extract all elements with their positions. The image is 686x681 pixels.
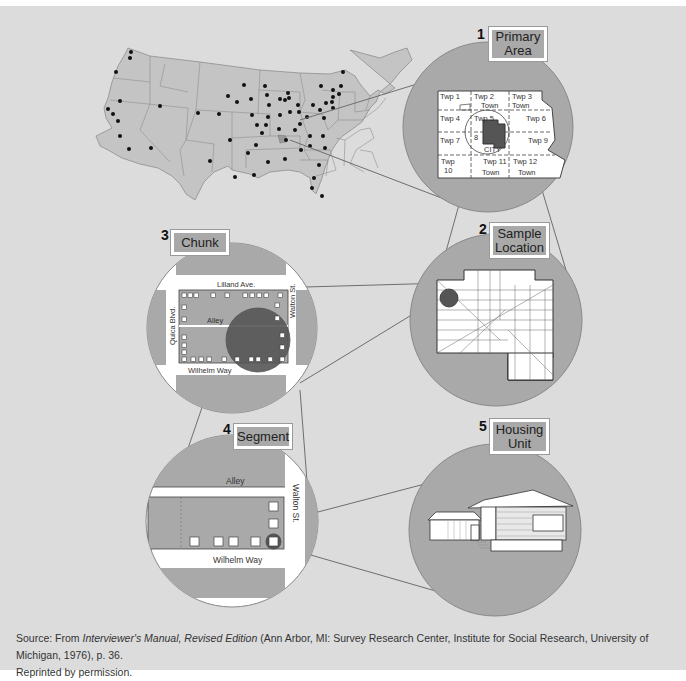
label-primary-area-text: PrimaryArea — [492, 30, 544, 58]
svg-text:CITY: CITY — [484, 145, 501, 154]
svg-text:Twp 9: Twp 9 — [528, 136, 548, 145]
primary-area-circle: Twp 1 Twp 2 Town Twp 3 Town Twp 4 Twp 5 … — [403, 42, 573, 212]
svg-text:Twp 7: Twp 7 — [440, 136, 460, 145]
label-sample-location-text: SampleLocation — [493, 226, 546, 255]
label-housing-unit: HousingUnit — [489, 418, 550, 455]
label-primary-area: PrimaryArea — [488, 26, 548, 62]
svg-text:Twp 4: Twp 4 — [440, 114, 460, 123]
svg-text:Twp 2: Twp 2 — [474, 92, 494, 101]
source-caption: Source: From Interviewer's Manual, Revis… — [16, 630, 676, 681]
svg-text:Alley: Alley — [226, 476, 245, 486]
svg-text:Quica Blvd.: Quica Blvd. — [168, 307, 177, 345]
svg-text:Wilhelm Way: Wilhelm Way — [188, 366, 232, 375]
svg-text:Twp 3: Twp 3 — [512, 92, 532, 101]
svg-text:Town: Town — [481, 101, 499, 110]
svg-text:Twp 6: Twp 6 — [526, 114, 546, 123]
svg-text:Lilland Ave.: Lilland Ave. — [217, 280, 255, 289]
label-segment-text: Segment — [237, 427, 289, 446]
step-number-5: 5 — [479, 418, 487, 434]
svg-text:Wilhelm Way: Wilhelm Way — [213, 555, 263, 565]
label-housing-unit-text: HousingUnit — [493, 422, 546, 451]
svg-text:10: 10 — [444, 166, 452, 175]
label-segment: Segment — [233, 423, 293, 450]
label-sample-location: SampleLocation — [489, 222, 550, 259]
label-chunk: Chunk — [170, 229, 230, 256]
svg-text:8: 8 — [474, 133, 478, 142]
step-number-4: 4 — [223, 421, 231, 437]
housing-unit-circle — [409, 444, 581, 616]
source-title: Interviewer's Manual, Revised Edition — [83, 632, 258, 644]
svg-text:Town: Town — [518, 168, 536, 177]
svg-text:Alley: Alley — [207, 316, 224, 325]
svg-text:Town: Town — [482, 168, 500, 177]
sample-location-circle — [410, 234, 582, 406]
svg-text:Twp 11: Twp 11 — [483, 157, 507, 166]
step-number-1: 1 — [477, 26, 485, 42]
svg-text:Twp 12: Twp 12 — [513, 157, 537, 166]
step-number-3: 3 — [161, 227, 169, 243]
label-chunk-text: Chunk — [174, 233, 226, 252]
svg-text:Walton St.: Walton St. — [288, 284, 297, 318]
chunk-circle: Lilland Ave. Alley Wilhelm Way Quica Blv… — [140, 240, 326, 415]
us-map — [96, 48, 412, 200]
svg-text:Twp 5: Twp 5 — [474, 114, 494, 123]
svg-text:Twp 1: Twp 1 — [440, 92, 460, 101]
svg-text:Town: Town — [512, 101, 530, 110]
svg-text:Walton St.: Walton St. — [291, 484, 301, 523]
svg-text:Twp: Twp — [441, 157, 455, 166]
step-number-2: 2 — [479, 221, 487, 237]
